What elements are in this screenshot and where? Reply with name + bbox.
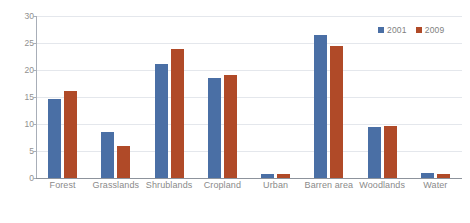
y-axis-tick-label: 20 xyxy=(0,66,34,75)
bar-group xyxy=(143,16,196,178)
y-axis-tick-mark xyxy=(33,178,36,179)
bar xyxy=(330,46,343,178)
bar xyxy=(261,174,274,178)
x-axis-label: Urban xyxy=(249,181,302,191)
y-axis-tick-label: 15 xyxy=(0,93,34,102)
bar xyxy=(314,35,327,178)
x-axis-label: Barren area xyxy=(302,181,355,191)
x-axis-label: Water xyxy=(409,181,462,191)
legend-label: 2009 xyxy=(425,26,445,35)
y-axis-tick-label: 10 xyxy=(0,120,34,129)
legend-swatch-icon xyxy=(378,27,384,33)
bar xyxy=(48,99,61,178)
legend-label: 2001 xyxy=(387,26,407,35)
bar xyxy=(208,78,221,178)
y-axis-tick-label: 5 xyxy=(0,147,34,156)
y-axis-tick-label: 25 xyxy=(0,39,34,48)
chart-legend: 20012009 xyxy=(378,26,444,35)
legend-item: 2009 xyxy=(416,26,445,35)
bar xyxy=(421,173,434,178)
x-axis-label: Forest xyxy=(36,181,89,191)
x-axis-label: Cropland xyxy=(196,181,249,191)
bar xyxy=(224,75,237,178)
x-axis-label: Shrublands xyxy=(143,181,196,191)
bar xyxy=(117,146,130,178)
bar-group xyxy=(249,16,302,178)
bar xyxy=(277,174,290,178)
bar-group xyxy=(409,16,462,178)
x-axis-label: Woodlands xyxy=(356,181,409,191)
x-axis-line xyxy=(36,178,462,179)
y-axis-tick-label: 30 xyxy=(0,12,34,21)
x-axis-label: Grasslands xyxy=(89,181,142,191)
bar-group xyxy=(36,16,89,178)
bar-group xyxy=(89,16,142,178)
bar xyxy=(64,91,77,178)
bar xyxy=(384,126,397,178)
legend-item: 2001 xyxy=(378,26,407,35)
bar-groups xyxy=(36,16,462,178)
bar xyxy=(171,49,184,178)
bar-group xyxy=(356,16,409,178)
bar-chart: 051015202530 ForestGrasslandsShrublandsC… xyxy=(0,0,470,223)
x-axis-category-labels: ForestGrasslandsShrublandsCroplandUrbanB… xyxy=(36,181,462,191)
bar-group xyxy=(302,16,355,178)
bar xyxy=(437,174,450,178)
y-axis-tick-label: 0 xyxy=(0,174,34,183)
bar xyxy=(101,132,114,178)
bar xyxy=(155,64,168,178)
bar xyxy=(368,127,381,178)
bar-group xyxy=(196,16,249,178)
legend-swatch-icon xyxy=(416,27,422,33)
